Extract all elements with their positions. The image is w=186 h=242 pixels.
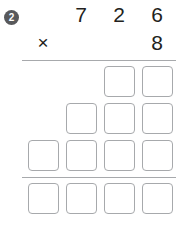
multiplier-digit-cell: 8 <box>138 28 176 56</box>
final-answer-box[interactable] <box>28 183 59 214</box>
answer-cell <box>100 63 138 100</box>
final-answer-box[interactable] <box>66 183 97 214</box>
answer-cell <box>138 100 176 137</box>
multiplicand-digit-tens: 2 <box>113 4 125 25</box>
multiplicand-digit-ones: 6 <box>151 4 163 25</box>
answer-cell <box>62 100 100 137</box>
answer-cell <box>138 63 176 100</box>
final-answer-box[interactable] <box>142 183 173 214</box>
answer-box[interactable] <box>142 140 173 171</box>
partial-product-row-2 <box>0 100 186 137</box>
partial-product-row-3 <box>0 137 186 174</box>
answer-box[interactable] <box>66 140 97 171</box>
lower-rule-wrap <box>0 177 186 178</box>
answer-box[interactable] <box>66 103 97 134</box>
answer-cell <box>100 180 138 217</box>
multiplicand-digit-cell: 6 <box>138 0 176 28</box>
final-answer-box[interactable] <box>104 183 135 214</box>
multiplier-digit-ones: 8 <box>151 32 163 53</box>
answer-cell <box>62 180 100 217</box>
calculation-grid: 7 2 6 × 8 <box>0 0 186 217</box>
upper-rule-wrap <box>0 60 186 61</box>
answer-box[interactable] <box>104 103 135 134</box>
long-multiplication-problem: 2 7 2 6 × 8 <box>0 0 186 242</box>
answer-box[interactable] <box>142 103 173 134</box>
answer-box[interactable] <box>104 66 135 97</box>
answer-cell <box>24 137 62 174</box>
answer-box[interactable] <box>104 140 135 171</box>
answer-cell <box>100 100 138 137</box>
multiplier-row: × 8 <box>0 28 186 56</box>
multiplicand-digit-cell: 2 <box>100 0 138 28</box>
answer-cell <box>24 180 62 217</box>
multiplicand-digit-hundreds: 7 <box>75 4 87 25</box>
answer-box[interactable] <box>28 140 59 171</box>
multiplicand-digit-cell: 7 <box>62 0 100 28</box>
operator-cell: × <box>24 28 62 56</box>
answer-cell <box>138 137 176 174</box>
upper-horizontal-rule <box>22 60 176 61</box>
answer-cell <box>100 137 138 174</box>
answer-cell <box>138 180 176 217</box>
multiplication-operator-icon: × <box>37 33 48 52</box>
final-answer-row <box>0 180 186 217</box>
lower-horizontal-rule <box>22 177 176 178</box>
answer-box[interactable] <box>142 66 173 97</box>
answer-cell <box>62 137 100 174</box>
multiplicand-row: 7 2 6 <box>0 0 186 28</box>
partial-product-row-1 <box>0 63 186 100</box>
